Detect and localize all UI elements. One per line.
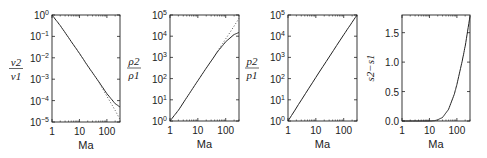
x-tick-label: 10 <box>74 126 86 137</box>
panel-rho-ratio: 110100100101102103104105Maρ2ρ1 <box>127 9 239 150</box>
x-tick-label: 100 <box>99 126 116 137</box>
series-real-gas <box>402 16 470 121</box>
y-tick-label: 10−1 <box>30 30 49 42</box>
x-tick-label: 10 <box>310 125 322 136</box>
x-tick-label: 100 <box>449 125 466 136</box>
panel-nu-ratio: 11010010010−110−210−310−410−5Maν2ν1 <box>9 9 120 151</box>
y-tick-label: 102 <box>152 73 167 85</box>
y-tick-label: 0.5 <box>385 87 399 98</box>
y-tick-label: 105 <box>152 9 167 21</box>
x-axis-label: Ma <box>197 138 213 150</box>
axes-frame <box>170 15 239 121</box>
x-tick-label: 100 <box>335 125 352 136</box>
x-axis-label: Ma <box>315 138 331 150</box>
x-tick-label: 1 <box>167 125 173 136</box>
y-tick-label: 1.0 <box>385 57 399 68</box>
y-tick-label: 103 <box>152 51 167 63</box>
series-real-gas <box>52 15 120 107</box>
y-axis-label-numerator: ν2 <box>11 56 22 68</box>
axes-frame <box>402 15 470 121</box>
x-tick-label: 1 <box>399 125 405 136</box>
panel-p-ratio: 110100100101102103104105Map2p1 <box>245 9 357 150</box>
y-tick-label: 104 <box>152 30 167 42</box>
y-tick-label: 102 <box>270 73 285 85</box>
figure: 11010010010−110−210−310−410−5Maν2ν111010… <box>0 0 487 158</box>
series-ideal-gas <box>99 82 120 120</box>
y-axis-label-numerator: ρ2 <box>128 55 140 67</box>
x-axis-label: Ma <box>78 139 94 151</box>
y-axis-label: s2−s1 <box>364 55 376 82</box>
x-axis-label: Ma <box>428 138 444 150</box>
series-real-gas <box>170 33 239 122</box>
y-tick-label: 100 <box>270 115 285 127</box>
y-axis-label-numerator: p2 <box>246 55 259 67</box>
y-axis-label-denominator: p1 <box>246 69 258 81</box>
x-tick-label: 1 <box>49 126 55 137</box>
series-real-gas <box>288 15 357 121</box>
y-tick-label: 10−3 <box>30 73 49 85</box>
y-tick-label: 103 <box>270 51 285 63</box>
y-tick-label: 104 <box>270 30 285 42</box>
y-tick-label: 100 <box>152 115 167 127</box>
series-ideal-gas <box>217 18 239 51</box>
y-axis-label-denominator: ν1 <box>11 70 21 82</box>
x-tick-label: 1 <box>285 125 291 136</box>
y-axis-label-denominator: ρ1 <box>128 69 140 81</box>
y-tick-label: 10−5 <box>30 116 49 128</box>
x-tick-label: 10 <box>192 125 204 136</box>
y-tick-label: 105 <box>270 9 285 21</box>
panel-entropy-jump: 1101000.00.51.01.5Mas2−s1 <box>364 15 470 150</box>
y-tick-label: 1.5 <box>385 28 399 39</box>
y-tick-label: 10−4 <box>30 95 49 107</box>
y-tick-label: 100 <box>34 9 49 21</box>
y-tick-label: 101 <box>270 94 285 106</box>
x-tick-label: 10 <box>424 125 436 136</box>
axes-frame <box>52 15 120 122</box>
y-tick-label: 0.0 <box>385 116 399 127</box>
y-tick-label: 10−2 <box>30 52 49 64</box>
y-tick-label: 101 <box>152 94 167 106</box>
x-tick-label: 100 <box>217 125 234 136</box>
